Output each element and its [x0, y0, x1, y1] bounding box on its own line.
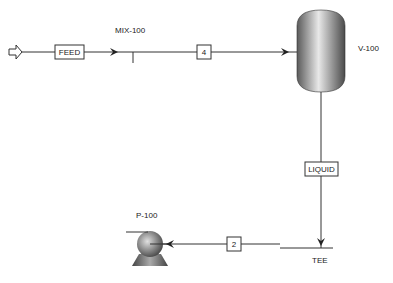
stream-4-label: 4 [202, 48, 207, 57]
stream-4[interactable]: 4 [197, 45, 211, 59]
stream-2[interactable]: 2 [227, 237, 241, 251]
pump-p-100[interactable] [126, 231, 168, 266]
tee-label: TEE [312, 256, 328, 265]
stream-feed-label: FEED [59, 48, 81, 57]
stream-liquid[interactable]: LIQUID [305, 162, 338, 176]
stream-2-label: 2 [232, 240, 237, 249]
flowsheet-canvas: FEED MIX-100 4 V-100 LIQUID TEE 2 P-1 [0, 0, 393, 283]
stream-liquid-label: LIQUID [308, 165, 335, 174]
vessel-v-100[interactable] [297, 10, 345, 92]
mixer-label: MIX-100 [115, 26, 146, 35]
vessel-label: V-100 [358, 44, 379, 53]
stream-feed[interactable]: FEED [55, 45, 84, 59]
pump-label: P-100 [136, 211, 158, 220]
feed-inlet-arrow-icon[interactable] [9, 45, 22, 59]
